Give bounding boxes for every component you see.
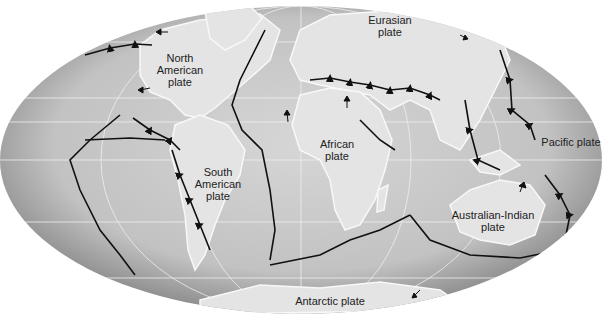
- label-antarctic-plate: Antarctic plate: [290, 295, 370, 307]
- label-african-plate: African plate: [312, 138, 362, 162]
- label-australian-indian-plate: Australian-Indian plate: [448, 209, 538, 233]
- label-north-american-plate: North American plate: [155, 52, 205, 88]
- label-south-american-plate: South American plate: [193, 166, 243, 202]
- tectonic-plate-map: [0, 0, 603, 314]
- label-pacific-plate: Pacific plate: [536, 136, 603, 148]
- label-eurasian-plate: Eurasian plate: [360, 14, 420, 38]
